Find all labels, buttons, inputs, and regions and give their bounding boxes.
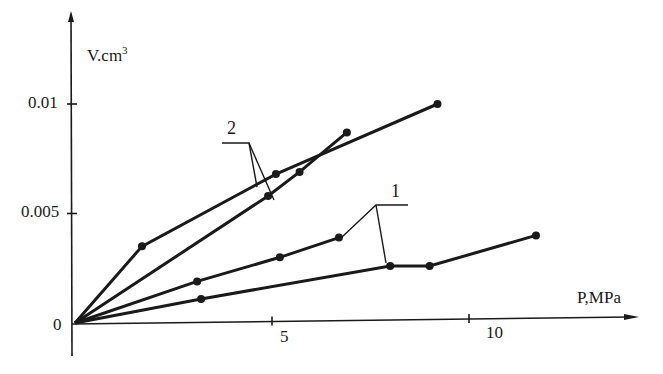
data-point [532, 231, 540, 239]
origin-label: 0 [53, 315, 62, 335]
data-point [197, 295, 205, 303]
x-axis-arrow-icon [624, 314, 639, 320]
data-point [426, 262, 434, 270]
axes [67, 11, 639, 356]
data-point [276, 253, 284, 261]
callout-leader-1a [342, 205, 408, 237]
series-lines [75, 104, 536, 323]
data-point [343, 128, 351, 136]
series-label-2: 2 [227, 118, 236, 139]
data-points [138, 100, 540, 303]
series-label-1: 1 [391, 181, 400, 202]
y-axis-title: V.cm3 [87, 44, 128, 66]
data-point [193, 277, 201, 285]
x-axis-title: P,MPa [577, 288, 621, 308]
data-point [296, 168, 304, 176]
y-axis-arrow-icon [68, 11, 74, 22]
y-tick-label-0.01: 0.01 [28, 93, 58, 113]
data-point [272, 170, 280, 178]
callout-leader-1b [376, 205, 386, 263]
callout-leader-2b [249, 143, 274, 200]
x-tick-label-5: 5 [280, 327, 289, 347]
x-axis-line [72, 317, 630, 324]
x-tick-label-10: 10 [486, 323, 503, 343]
y-axis-title-base: V.cm [87, 46, 122, 65]
data-point [386, 262, 394, 270]
y-axis-line [71, 14, 72, 356]
data-point [335, 234, 343, 242]
y-tick-label-0.005: 0.005 [21, 202, 59, 222]
data-point [138, 242, 146, 250]
data-point [433, 100, 441, 108]
y-axis-title-sup: 3 [122, 44, 128, 56]
series-line-1 [75, 238, 339, 323]
